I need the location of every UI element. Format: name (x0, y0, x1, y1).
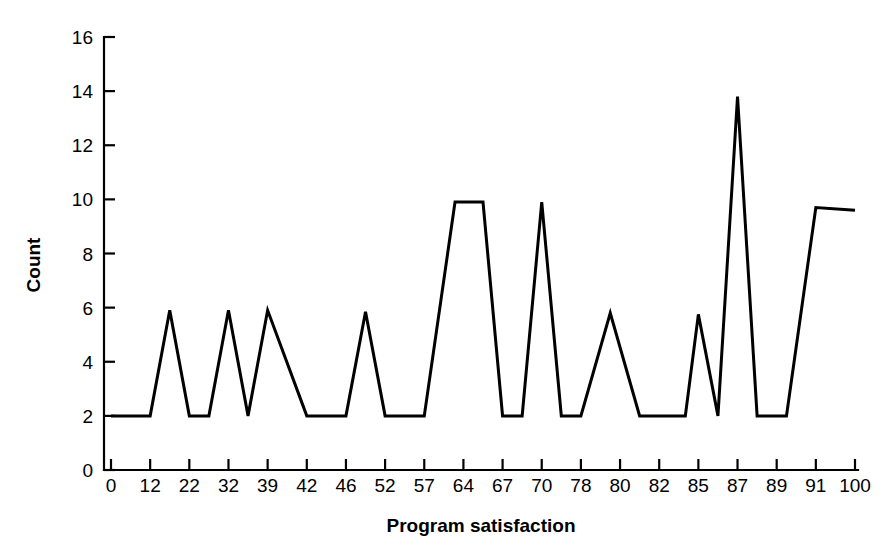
x-tick-label-89: 89 (766, 475, 787, 496)
y-tick-label-16: 16 (72, 27, 93, 48)
x-tick-label-22: 22 (179, 475, 200, 496)
x-tick-label-12: 12 (140, 475, 161, 496)
y-axis-title: Count (23, 237, 44, 293)
x-tick-label-70: 70 (531, 475, 552, 496)
x-axis-title: Program satisfaction (387, 515, 576, 536)
x-tick-label-52: 52 (375, 475, 396, 496)
x-tick-label-100: 100 (839, 475, 871, 496)
x-tick-label-91: 91 (805, 475, 826, 496)
y-tick-label-2: 2 (82, 406, 93, 427)
y-tick-label-10: 10 (72, 189, 93, 210)
x-tick-label-82: 82 (649, 475, 670, 496)
x-tick-label-0: 0 (106, 475, 117, 496)
x-tick-label-64: 64 (453, 475, 475, 496)
x-tick-label-57: 57 (414, 475, 435, 496)
x-tick-label-78: 78 (570, 475, 591, 496)
x-tick-label-85: 85 (688, 475, 709, 496)
y-tick-label-8: 8 (82, 244, 93, 265)
x-tick-label-42: 42 (296, 475, 317, 496)
y-tick-label-6: 6 (82, 298, 93, 319)
x-tick-label-46: 46 (335, 475, 356, 496)
x-tick-label-80: 80 (609, 475, 630, 496)
x-tick-label-39: 39 (257, 475, 278, 496)
x-tick-label-87: 87 (727, 475, 748, 496)
x-tick-label-32: 32 (218, 475, 239, 496)
y-tick-label-0: 0 (82, 460, 93, 481)
y-tick-label-14: 14 (72, 81, 94, 102)
y-tick-label-12: 12 (72, 135, 93, 156)
chart-background (0, 0, 892, 560)
chart-container: 0246810121416 Count 01222323942465257646… (0, 0, 892, 560)
line-chart: 0246810121416 Count 01222323942465257646… (0, 0, 892, 560)
x-tick-label-67: 67 (492, 475, 513, 496)
y-tick-label-4: 4 (82, 352, 93, 373)
